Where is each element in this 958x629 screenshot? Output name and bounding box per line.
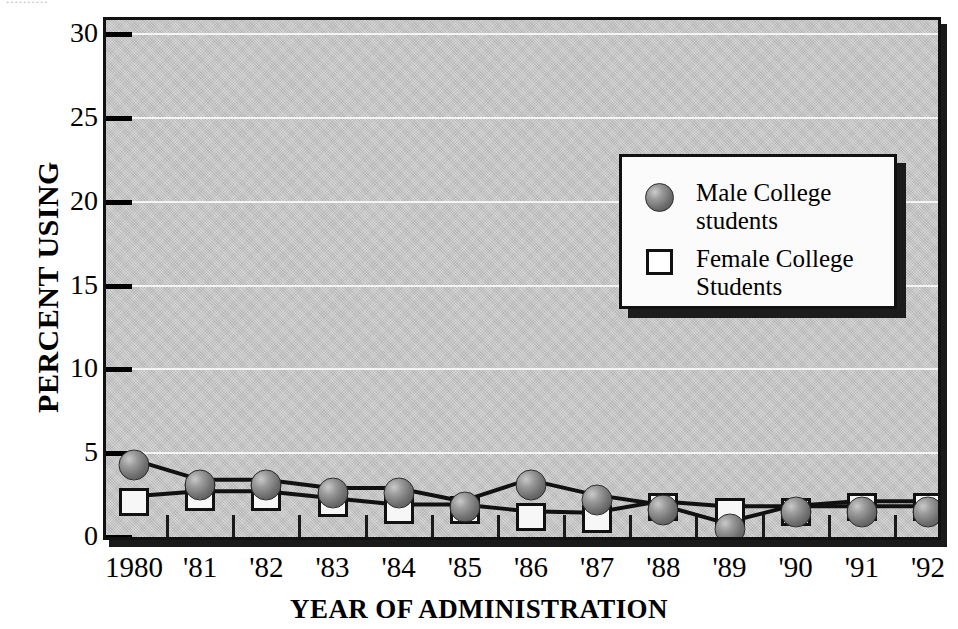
y-tick-label-30: 30 bbox=[36, 19, 98, 47]
y-tick-label-10: 10 bbox=[36, 354, 98, 382]
data-point-male-1990 bbox=[780, 496, 811, 527]
data-point-female-1980 bbox=[119, 488, 149, 516]
x-tick-label-12: '92 bbox=[911, 551, 945, 583]
plot-frame bbox=[103, 17, 941, 540]
data-point-male-1983 bbox=[317, 478, 348, 509]
x-tick-label-1: '81 bbox=[183, 551, 217, 583]
data-point-female-1986 bbox=[516, 503, 546, 531]
x-tick-label-4: '84 bbox=[382, 551, 416, 583]
x-tick-label-10: '90 bbox=[779, 551, 813, 583]
x-tick-label-8: '88 bbox=[646, 551, 680, 583]
data-point-male-1982 bbox=[251, 470, 282, 501]
x-tick-label-7: '87 bbox=[580, 551, 614, 583]
x-tick-label-3: '83 bbox=[315, 551, 349, 583]
y-tick-label-20: 20 bbox=[36, 187, 98, 215]
x-tick-label-6: '86 bbox=[514, 551, 548, 583]
y-tick-label-0: 0 bbox=[36, 522, 98, 550]
x-tick-label-11: '91 bbox=[845, 551, 879, 583]
x-tick-label-0: 1980 bbox=[105, 551, 163, 583]
data-point-male-1981 bbox=[185, 470, 216, 501]
x-axis-tick-labels: 1980'81'82'83'84'85'86'87'88'89'90'91'92 bbox=[103, 551, 941, 591]
data-point-male-1988 bbox=[648, 495, 679, 526]
x-tick-label-2: '82 bbox=[249, 551, 283, 583]
y-axis-tick-labels: 051015202530 bbox=[26, 0, 98, 629]
data-point-male-1980 bbox=[119, 449, 150, 480]
data-point-male-1984 bbox=[383, 478, 414, 509]
x-axis-title: YEAR OF ADMINISTRATION bbox=[0, 594, 958, 625]
y-tick-label-15: 15 bbox=[36, 271, 98, 299]
data-point-male-1989 bbox=[714, 513, 745, 540]
plot-area bbox=[106, 20, 938, 537]
series-line-layer bbox=[106, 20, 938, 537]
data-point-male-1992 bbox=[913, 496, 942, 527]
x-tick-label-9: '89 bbox=[712, 551, 746, 583]
y-tick-label-25: 25 bbox=[36, 103, 98, 131]
data-point-male-1986 bbox=[516, 470, 547, 501]
y-tick-label-5: 5 bbox=[36, 438, 98, 466]
chart-figure: .......... PERCENT USING 051015202530 19… bbox=[0, 0, 958, 629]
data-point-male-1985 bbox=[449, 491, 480, 522]
data-point-male-1991 bbox=[846, 496, 877, 527]
data-point-male-1987 bbox=[582, 485, 613, 516]
x-tick-label-5: '85 bbox=[448, 551, 482, 583]
